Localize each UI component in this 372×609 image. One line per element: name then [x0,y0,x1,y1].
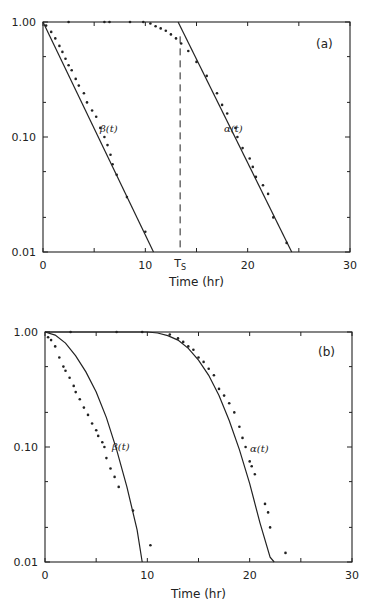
panel-label: (b) [318,345,335,359]
data-point [101,441,104,444]
panel-label: (a) [316,37,333,51]
data-point [169,333,172,336]
data-point [202,361,205,364]
data-point [83,406,86,409]
data-point [180,42,183,45]
x-axis-title: Time (hr) [168,275,224,289]
x-tick-label: 0 [40,259,47,272]
data-point [83,92,86,95]
data-point [177,337,180,340]
data-point [192,349,195,352]
data-point [91,422,94,425]
data-point [126,196,129,199]
data-point [50,31,53,34]
y-tick-label: 0.10 [12,131,37,144]
data-point [50,339,53,342]
data-point [267,511,270,514]
data-point [207,367,210,370]
data-point [269,526,272,529]
data-point [226,112,229,115]
data-point [58,45,61,48]
data-point [149,22,152,25]
curve-label: α(t) [224,123,243,134]
data-point [74,78,77,81]
data-point [170,33,173,36]
data-point [238,425,241,428]
data-point [197,356,200,359]
data-point [165,29,168,32]
data-point [87,414,90,417]
data-point [109,154,112,157]
data-point [244,446,247,449]
x-tick-label: 30 [343,259,357,272]
data-point [91,109,94,112]
data-point [129,21,132,24]
data-point [103,446,106,449]
data-point [113,476,116,479]
ts-label: TS [173,257,186,272]
fit-line [43,22,154,252]
data-point [228,402,231,405]
data-point [236,136,239,139]
data-point [141,331,144,334]
fit-line [45,332,274,562]
data-point [106,144,109,147]
data-point [205,75,208,78]
data-point [154,25,157,28]
data-point [267,193,270,196]
data-point [97,435,100,438]
data-point [95,429,98,432]
curve-label: α(t) [250,443,269,454]
series-beta: β(t) [45,332,152,562]
data-point [142,21,145,24]
data-point [144,230,147,233]
y-tick-label: 0.10 [14,441,39,454]
data-point [58,356,61,359]
data-point [79,398,82,401]
panel-b: 01020301.000.100.01Time (hr)(b)β(t)α(t) [14,326,360,601]
data-point [248,460,251,463]
x-tick-label: 10 [140,569,154,582]
data-point [264,503,267,506]
data-point [284,552,287,555]
y-tick-label: 0.01 [12,246,37,259]
data-point [254,473,257,476]
curve-label: β(t) [99,123,118,134]
data-point [54,345,57,348]
data-point [47,336,50,339]
data-point [67,64,70,67]
plot-frame [43,22,350,252]
data-point [70,69,73,72]
data-point [182,341,185,344]
fit-line [178,22,292,252]
data-point [69,331,72,334]
panel-a: 01020301.000.100.01Time (hr)(a)TSβ(t)α(t… [12,16,358,289]
data-point [109,467,112,470]
data-point [62,365,65,368]
data-point [64,370,67,373]
data-point [68,377,71,380]
data-point [103,21,106,24]
data-point [117,486,120,489]
data-point [95,115,98,118]
data-point [255,176,258,179]
data-point [74,391,77,394]
data-point [250,465,253,468]
data-point [72,385,75,388]
x-tick-label: 10 [138,259,152,272]
data-point [272,216,275,219]
data-point [252,166,255,169]
y-tick-label: 1.00 [14,326,39,339]
data-point [108,21,111,24]
series-alpha: α(t) [67,21,291,252]
data-point [213,374,216,377]
y-tick-label: 1.00 [12,16,37,29]
x-tick-label: 20 [243,569,257,582]
data-point [149,544,152,547]
data-point [216,92,219,95]
data-point [218,388,221,391]
data-point [187,345,190,348]
x-tick-label: 0 [42,569,49,582]
data-point [187,50,190,53]
data-point [262,184,265,187]
